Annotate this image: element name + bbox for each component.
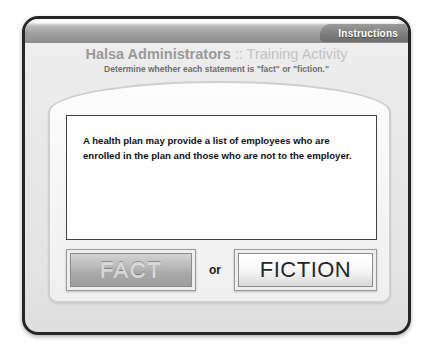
statement-box: A health plan may provide a list of empl… xyxy=(66,115,377,240)
fact-button[interactable]: FACT xyxy=(66,249,196,291)
fact-button-label: FACT xyxy=(100,257,162,283)
activity-header: Halsa Administrators :: Training Activit… xyxy=(25,45,408,75)
answer-separator-label: or xyxy=(207,263,223,277)
page-title: Halsa Administrators :: Training Activit… xyxy=(25,45,408,63)
screenshot-root: Instructions Halsa Administrators :: Tra… xyxy=(0,0,433,356)
answer-buttons-row: FACT or FICTION xyxy=(66,249,377,291)
fact-button-bevel: FACT xyxy=(70,253,192,287)
fiction-button-bevel: FICTION xyxy=(238,253,373,287)
tab-instructions[interactable]: Instructions xyxy=(320,24,408,42)
page-title-primary: Halsa Administrators xyxy=(85,46,230,62)
fiction-button-label: FICTION xyxy=(260,257,352,283)
activity-screen-panel: A health plan may provide a list of empl… xyxy=(48,81,391,303)
window-top-band: Instructions xyxy=(25,19,408,43)
page-title-secondary: :: Training Activity xyxy=(231,46,348,62)
page-subtitle: Determine whether each statement is "fac… xyxy=(25,64,408,75)
tab-instructions-label: Instructions xyxy=(338,28,398,39)
statement-text: A health plan may provide a list of empl… xyxy=(83,134,358,163)
activity-window-frame: Instructions Halsa Administrators :: Tra… xyxy=(22,16,411,335)
fiction-button[interactable]: FICTION xyxy=(234,249,377,291)
